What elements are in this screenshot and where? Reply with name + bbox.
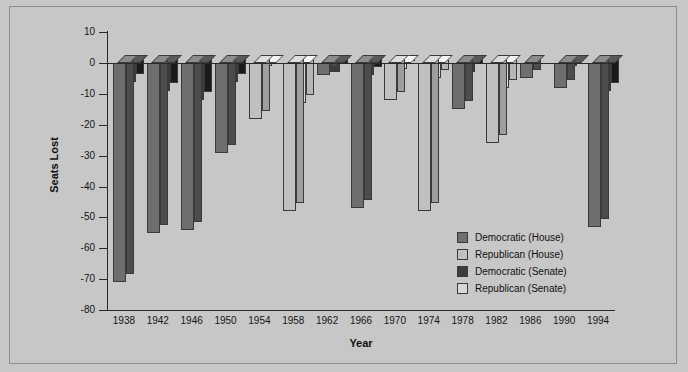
y-axis-tick (99, 248, 107, 249)
y-axis-tick-label: -50 (55, 212, 95, 222)
bar-house-1966[interactable] (351, 63, 364, 208)
y-axis-tick (99, 156, 107, 157)
legend-label: Democratic (House) (475, 232, 564, 243)
legend-item-2[interactable]: Democratic (Senate) (457, 263, 567, 280)
bar-house-1986-cap (524, 55, 545, 63)
y-axis-tick (99, 187, 107, 188)
bar-house-1942-side (160, 55, 168, 225)
bar-house-1978[interactable] (452, 63, 465, 109)
bar-house-1994[interactable] (588, 63, 601, 227)
bar-house-1958-side (296, 55, 304, 203)
bar-house-1946[interactable] (181, 63, 194, 230)
legend-swatch-icon (457, 232, 468, 243)
legend-label: Democratic (Senate) (475, 266, 567, 277)
chart-figure: Seats Lost Year 100-10-20-30-40-50-60-70… (0, 0, 688, 372)
y-axis-tick-label: -70 (55, 274, 95, 284)
bar-house-1982-side (499, 55, 507, 135)
bar-house-1986[interactable] (520, 63, 533, 78)
y-axis-tick (99, 94, 107, 95)
legend-swatch-icon (457, 266, 468, 277)
legend-item-3[interactable]: Republican (Senate) (457, 280, 567, 297)
bar-house-1942[interactable] (147, 63, 160, 233)
y-axis-tick (99, 63, 107, 64)
y-axis-title: Seats Lost (48, 115, 60, 215)
zero-baseline (107, 63, 615, 64)
y-axis-tick-label: -20 (55, 120, 95, 130)
bar-house-1974[interactable] (418, 63, 431, 211)
y-axis-tick (99, 279, 107, 280)
legend-label: Republican (House) (475, 249, 563, 260)
bar-house-1938[interactable] (113, 63, 126, 282)
legend-swatch-icon (457, 249, 468, 260)
bar-house-1958[interactable] (283, 63, 296, 211)
y-axis-tick-label: -60 (55, 243, 95, 253)
chart-frame: Seats Lost Year 100-10-20-30-40-50-60-70… (9, 6, 677, 364)
bar-house-1966-side (364, 55, 372, 200)
y-axis-tick (99, 310, 107, 311)
y-axis-tick-label: -40 (55, 182, 95, 192)
bar-house-1994-side (601, 55, 609, 219)
bar-house-1950-side (228, 55, 236, 145)
bar-house-1990[interactable] (554, 63, 567, 88)
legend-item-1[interactable]: Republican (House) (457, 246, 567, 263)
bar-house-1970[interactable] (384, 63, 397, 100)
y-axis-tick-label: -10 (55, 89, 95, 99)
y-axis-tick-label: -80 (55, 305, 95, 315)
y-axis-tick-label: -30 (55, 151, 95, 161)
y-axis-tick-label: 0 (55, 58, 95, 68)
y-axis-tick (99, 32, 107, 33)
legend-swatch-icon (457, 283, 468, 294)
y-axis-tick-label: 10 (55, 27, 95, 37)
legend-item-0[interactable]: Democratic (House) (457, 229, 567, 246)
x-axis-tick-label: 1994 (578, 315, 618, 326)
y-axis-tick (99, 125, 107, 126)
y-axis-line (107, 31, 108, 311)
bar-house-1938-side (126, 55, 134, 274)
x-axis-title: Year (107, 337, 615, 349)
chart-legend: Democratic (House)Republican (House)Demo… (457, 229, 567, 297)
bar-house-1974-side (431, 55, 439, 203)
bar-house-1982[interactable] (486, 63, 499, 143)
x-axis-line (107, 310, 615, 311)
legend-label: Republican (Senate) (475, 283, 566, 294)
bar-house-1954[interactable] (249, 63, 262, 119)
bar-house-1950[interactable] (215, 63, 228, 153)
bar-house-1946-side (194, 55, 202, 222)
y-axis-tick (99, 217, 107, 218)
bar-house-1962[interactable] (317, 63, 330, 75)
